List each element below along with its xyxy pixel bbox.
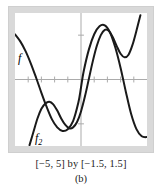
curve-label-f2-subscript: 2 [38,138,42,147]
plot-area [15,13,147,146]
curve-label-f2: f2 [35,132,42,147]
graph-figure: f f2 [−5, 5] by [−1.5, 1.5] (b) [0,0,162,189]
caption-viewing-window: [−5, 5] by [−1.5, 1.5] [0,158,162,169]
curve-label-f: f [18,52,21,64]
caption-part-label: (b) [0,173,162,184]
plot-svg [15,13,147,146]
calculator-screen-frame [8,6,154,153]
